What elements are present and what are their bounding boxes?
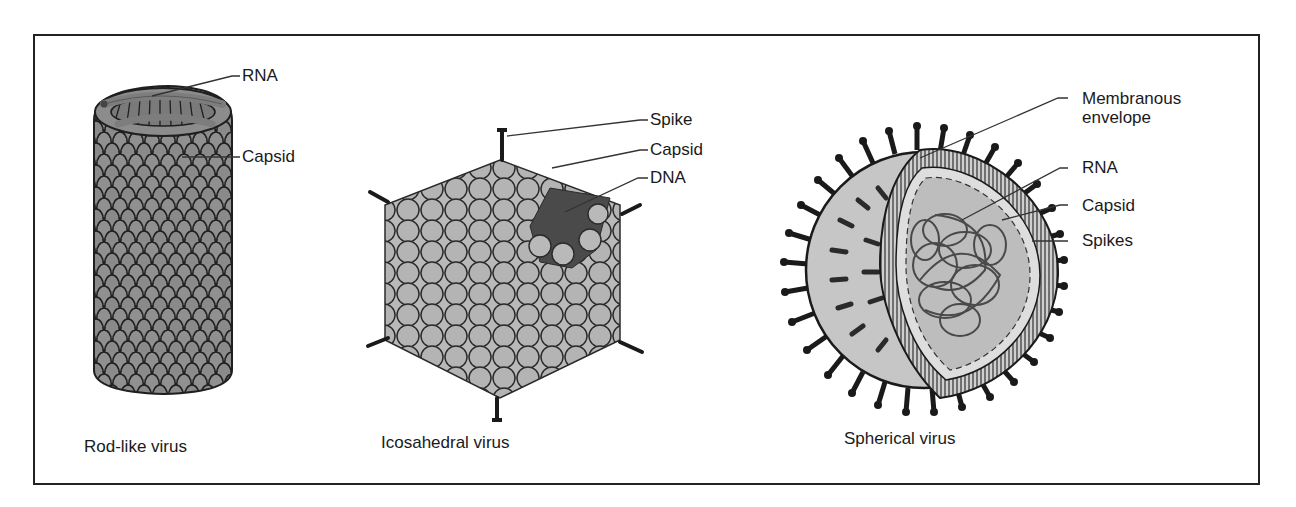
label-spherical-envelope: envelope (1082, 108, 1151, 128)
label-spherical-capsid: Capsid (1082, 196, 1135, 216)
label-spherical-rna: RNA (1082, 158, 1118, 178)
label-icosahedral-spike: Spike (650, 110, 693, 130)
caption-spherical-virus: Spherical virus (844, 429, 956, 449)
label-rod-rna: RNA (242, 66, 278, 86)
caption-icosahedral-virus: Icosahedral virus (381, 433, 510, 453)
caption-rod-like-virus: Rod-like virus (84, 437, 187, 457)
icosahedral-virus-illustration (368, 120, 648, 422)
virus-illustrations (0, 0, 1296, 507)
label-icosahedral-dna: DNA (650, 168, 686, 188)
rod-virus-illustration (94, 76, 240, 394)
label-rod-capsid: Capsid (242, 147, 295, 167)
spherical-virus-illustration (780, 98, 1068, 416)
label-spherical-membranous: Membranous (1082, 89, 1181, 109)
label-spherical-spikes: Spikes (1082, 231, 1133, 251)
label-icosahedral-capsid: Capsid (650, 140, 703, 160)
